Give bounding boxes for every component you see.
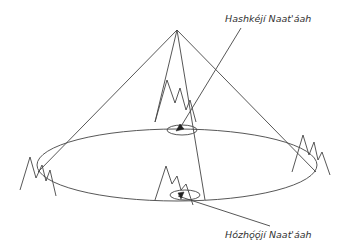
upper-label: Hashkéjí Naat'áah bbox=[225, 13, 311, 24]
cone-lines bbox=[38, 30, 316, 200]
mountain-icon-top-center bbox=[155, 80, 196, 122]
lower-label-leader bbox=[178, 196, 270, 226]
lower-label: Hózhǫ́ǫ́jí Naat'áah bbox=[225, 229, 312, 240]
cone-diagram bbox=[0, 0, 350, 250]
mountain-icon-left bbox=[20, 157, 56, 196]
base-ellipse bbox=[37, 129, 317, 201]
